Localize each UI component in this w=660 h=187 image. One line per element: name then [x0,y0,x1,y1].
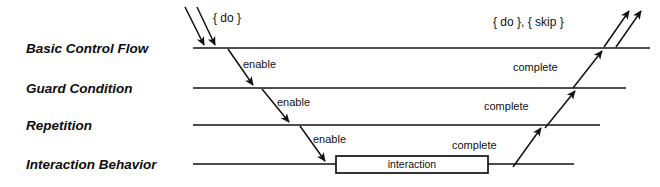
row-label-basic-control-flow: Basic Control Flow [26,41,150,56]
row-label-guard-condition: Guard Condition [26,81,132,96]
lifeline-diagram: Basic Control Flow Guard Condition Repet… [0,0,660,187]
enable-label-1: enable [243,58,276,70]
row-label-repetition: Repetition [26,118,92,133]
complete-label-2: complete [484,100,529,112]
row-label-interaction-behavior: Interaction Behavior [26,157,157,172]
outgoing-token-label: { do }, { skip } [493,15,564,29]
complete-label-3: complete [452,139,497,151]
interaction-box-label: interaction [388,158,437,170]
incoming-token-label: { do } [213,11,241,25]
complete-connector-3 [513,128,541,167]
diagram-canvas: Basic Control Flow Guard Condition Repet… [0,0,660,187]
incoming-arrow-1 [185,7,204,45]
complete-label-1: complete [513,61,558,73]
enable-label-2: enable [277,96,310,108]
complete-connector-2 [545,91,575,128]
outgoing-arrow-1 [604,11,629,47]
outgoing-arrow-2 [616,11,641,47]
complete-connector-1 [573,51,602,88]
enable-label-3: enable [313,133,346,145]
